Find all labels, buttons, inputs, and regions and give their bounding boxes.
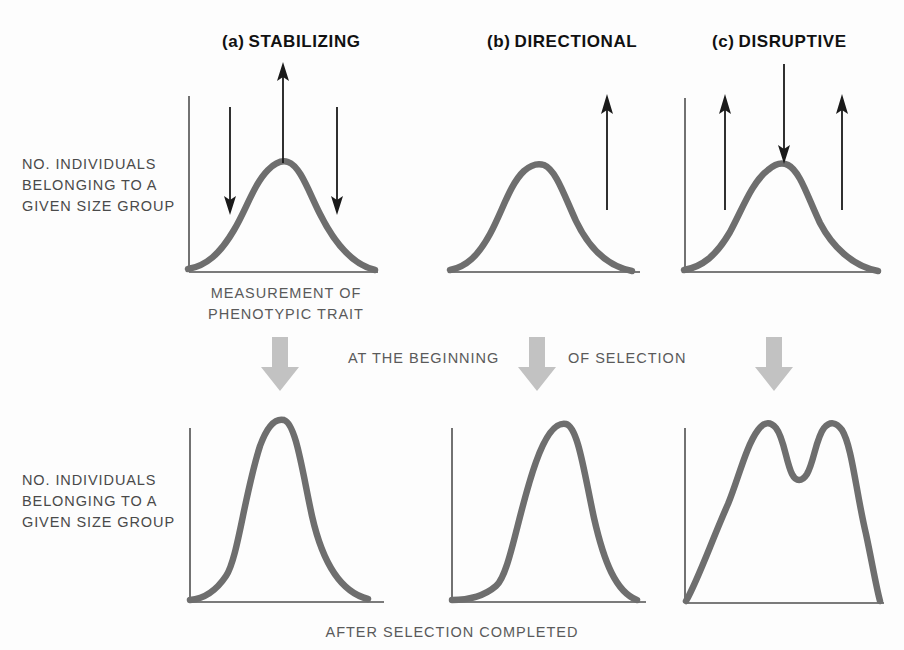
panel-title-b: (b)DIRECTIONAL [487,32,637,52]
bottom-caption: AFTER SELECTION COMPLETED [302,622,602,643]
chart-c-after [676,400,888,612]
panel-title-c: (c)DISRUPTIVE [712,32,847,52]
chart-a-after [182,400,387,612]
curve-a-before [188,161,375,270]
selection-arrow-c-center-down [778,64,790,164]
panel-label-a: (a) [222,32,245,51]
panel-label-c: (c) [712,32,735,51]
chart-b-before [444,58,644,278]
chart-b-after [444,400,649,612]
y-axis-label-bottom-row: NO. INDIVIDUALS BELONGING TO A GIVEN SIZ… [22,470,187,533]
chart-c-before [676,58,886,278]
transition-arrow-b [515,337,559,397]
middle-text-left: AT THE BEGINNING [348,348,503,369]
panel-title-a: (a)STABILIZING [222,32,361,52]
selection-arrow-b-right-up [601,94,613,210]
transition-arrow-a [258,337,302,397]
selection-arrow-a-center-up [277,62,289,163]
curve-a-after [190,420,368,600]
axes-b-after [452,428,646,602]
curve-c-after [686,423,880,601]
figure-root: (a)STABILIZING (b)DIRECTIONAL (c)DISRUPT… [0,0,904,650]
panel-name-a: STABILIZING [249,32,361,51]
selection-arrow-a-right-down [331,107,343,215]
x-axis-label-top-row: MEASUREMENT OF PHENOTYPIC TRAIT [186,283,386,325]
panel-name-b: DIRECTIONAL [515,32,638,51]
axes-a-after [190,428,384,602]
selection-arrow-c-left-up [719,94,731,210]
selection-arrow-c-right-up [836,94,848,210]
selection-arrow-a-left-down [224,107,236,215]
axes-c-before [685,98,881,272]
curve-b-after [452,424,637,600]
panel-label-b: (b) [487,32,511,51]
chart-a-before [182,58,382,278]
middle-text-right: OF SELECTION [568,348,698,369]
curve-c-before [684,163,878,271]
y-axis-label-top-row: NO. INDIVIDUALS BELONGING TO A GIVEN SIZ… [22,154,187,217]
panel-name-c: DISRUPTIVE [739,32,847,51]
transition-arrow-c [752,337,796,397]
curve-b-before [450,164,632,271]
